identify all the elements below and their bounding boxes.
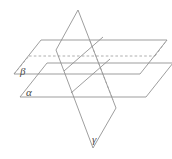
plane-gamma-edge-left-long [56, 50, 93, 148]
planes-diagram-canvas: β α γ [0, 0, 172, 159]
label-beta: β [19, 65, 26, 77]
intersection-gamma-beta [64, 37, 103, 71]
intersection-gamma-alpha [71, 59, 110, 93]
plane-beta [14, 40, 167, 74]
geometry-figure: β α γ [0, 0, 172, 159]
plane-gamma-edge-lower-right [93, 108, 116, 148]
label-alpha: α [26, 86, 32, 98]
plane-beta-hidden-connector-right [155, 40, 167, 56]
plane-alpha [20, 63, 172, 97]
label-gamma: γ [92, 133, 97, 145]
intersection-lines [64, 37, 110, 93]
plane-alpha-edge-right [146, 63, 172, 97]
plane-beta-edge-right [140, 40, 167, 74]
plane-gamma-edge-upper-left [56, 10, 78, 50]
plane-gamma [56, 10, 116, 148]
